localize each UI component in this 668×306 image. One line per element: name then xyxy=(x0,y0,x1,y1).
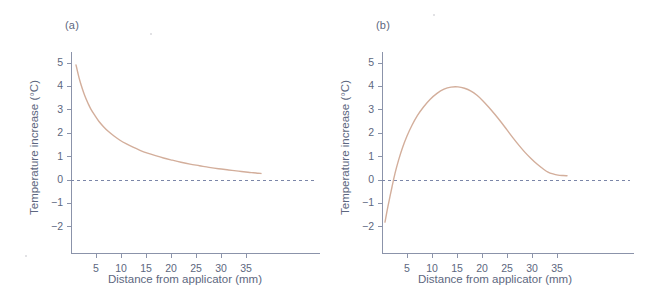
data-curve xyxy=(385,87,567,222)
y-tick-label: 3 xyxy=(348,103,374,115)
y-tick-label: 4 xyxy=(37,79,63,91)
y-tick-label: 2 xyxy=(37,126,63,138)
y-tick-label: 1 xyxy=(37,150,63,162)
y-tick-label: −1 xyxy=(348,196,374,208)
figure-container: (a) 543210−1−2 5101520253035 Distance fr… xyxy=(0,0,668,306)
y-tick-label: 1 xyxy=(348,150,374,162)
y-tick-label: 5 xyxy=(37,56,63,68)
y-tick-label: −2 xyxy=(37,220,63,232)
y-tick-label: −2 xyxy=(348,220,374,232)
y-axis-title-a: Temperature increase (°C) xyxy=(28,80,40,215)
y-tick-label: 2 xyxy=(348,126,374,138)
plot-b-svg xyxy=(334,0,668,306)
y-tick-label: −1 xyxy=(37,196,63,208)
x-axis-title-b: Distance from applicator (mm) xyxy=(370,273,620,285)
x-axis-title-a: Distance from applicator (mm) xyxy=(60,273,310,285)
y-tick-label: 0 xyxy=(348,173,374,185)
data-curve xyxy=(76,65,261,174)
y-axis-title-b: Temperature increase (°C) xyxy=(339,80,351,215)
chart-panel-b: (b) 543210−1−2 5101520253035 Distance fr… xyxy=(334,0,668,306)
y-tick-label: 5 xyxy=(348,56,374,68)
y-tick-label: 3 xyxy=(37,103,63,115)
chart-panel-a: (a) 543210−1−2 5101520253035 Distance fr… xyxy=(0,0,334,306)
y-tick-label: 0 xyxy=(37,173,63,185)
y-tick-label: 4 xyxy=(348,79,374,91)
